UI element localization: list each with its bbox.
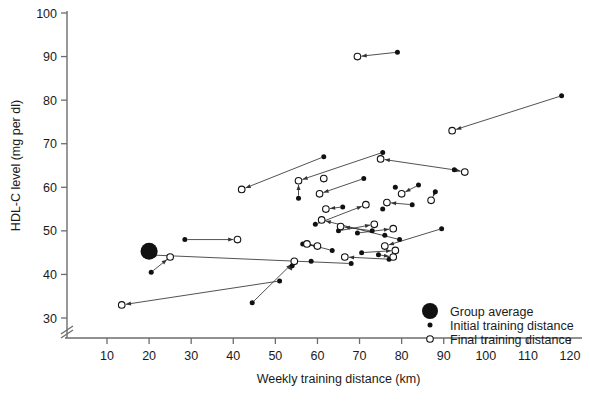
point-initial-training-distance — [277, 278, 282, 283]
arrow-connector — [246, 158, 322, 188]
x-tick-label-90: 90 — [437, 349, 451, 363]
point-final-training-distance — [291, 258, 298, 265]
point-final-training-distance — [354, 53, 361, 60]
point-initial-training-distance — [380, 207, 385, 212]
point-final-training-distance — [167, 254, 174, 261]
x-tick-label-60: 60 — [311, 349, 325, 363]
y-tick-label-40: 40 — [43, 268, 57, 282]
arrow-connector — [302, 153, 380, 179]
point-final-training-distance — [238, 186, 245, 193]
point-final-training-distance — [461, 169, 468, 176]
chart-legend: Group averageInitial training distanceFi… — [422, 303, 574, 347]
x-tick-label-80: 80 — [395, 349, 409, 363]
y-tick-label-70: 70 — [43, 137, 57, 151]
x-tick-label-50: 50 — [268, 349, 282, 363]
arrow-head — [246, 184, 252, 188]
arrow-head — [385, 158, 390, 162]
arrow-connector — [151, 255, 348, 263]
y-tick-label-80: 80 — [43, 94, 57, 108]
point-final-training-distance — [377, 156, 384, 163]
point-initial-training-distance — [321, 154, 326, 159]
data-points — [118, 50, 564, 309]
point-final-training-distance — [314, 243, 321, 250]
point-initial-training-distance — [439, 226, 444, 231]
point-initial-training-distance — [349, 261, 354, 266]
point-initial-training-distance — [452, 167, 457, 172]
arrow-connector — [349, 257, 387, 259]
point-initial-training-distance — [397, 237, 402, 242]
point-final-training-distance — [428, 197, 435, 204]
arrow-connector — [389, 229, 439, 244]
point-group-average — [141, 243, 158, 260]
point-initial-training-distance — [313, 222, 318, 227]
y-tick-label-90: 90 — [43, 50, 57, 64]
point-initial-training-distance — [395, 50, 400, 55]
legend-label-group-average: Group average — [450, 305, 533, 319]
legend-marker-final-training-distance — [427, 336, 434, 343]
point-final-training-distance — [363, 201, 370, 208]
arrow-connector — [456, 97, 559, 130]
point-final-training-distance — [390, 254, 397, 261]
point-initial-training-distance — [410, 202, 415, 207]
x-tick-label-120: 120 — [560, 349, 581, 363]
point-final-training-distance — [304, 241, 311, 248]
point-final-training-distance — [384, 199, 391, 206]
point-final-training-distance — [371, 221, 378, 228]
point-initial-training-distance — [309, 259, 314, 264]
legend-marker-initial-training-distance — [428, 323, 433, 328]
arrow-head — [386, 249, 391, 253]
point-initial-training-distance — [380, 150, 385, 155]
point-initial-training-distance — [416, 183, 421, 188]
point-final-training-distance — [323, 206, 330, 213]
arrow-head — [297, 185, 301, 190]
legend-label-final-training-distance: Final training distance — [450, 333, 572, 347]
arrow-head — [326, 220, 332, 224]
x-tick-label-110: 110 — [518, 349, 538, 363]
point-initial-training-distance — [149, 270, 154, 275]
x-axis-title: Weekly training distance (km) — [257, 372, 421, 386]
point-initial-training-distance — [361, 176, 366, 181]
point-final-training-distance — [398, 191, 405, 198]
point-initial-training-distance — [559, 93, 564, 98]
arrow-head — [456, 126, 462, 130]
point-final-training-distance — [318, 217, 325, 224]
point-final-training-distance — [342, 254, 349, 261]
point-initial-training-distance — [182, 237, 187, 242]
arrow-head — [330, 206, 335, 210]
point-initial-training-distance — [355, 231, 360, 236]
y-tick-label-30: 30 — [43, 312, 57, 326]
legend-label-initial-training-distance: Initial training distance — [450, 319, 574, 333]
point-final-training-distance — [316, 191, 323, 198]
arrow-head — [323, 189, 329, 193]
chart-canvas: 3040506070809010010203040506070809010011… — [0, 0, 590, 414]
x-tick-label-40: 40 — [226, 349, 240, 363]
arrow-connector — [323, 179, 361, 192]
x-tick-label-30: 30 — [184, 349, 198, 363]
point-initial-training-distance — [376, 252, 381, 257]
y-axis-title: HDL-C level (mg per dl) — [9, 100, 23, 231]
hdl-training-scatter-figure: 3040506070809010010203040506070809010011… — [0, 0, 590, 414]
point-initial-training-distance — [370, 228, 375, 233]
point-initial-training-distance — [359, 250, 364, 255]
arrow-connector — [254, 264, 291, 301]
point-final-training-distance — [234, 236, 241, 243]
point-initial-training-distance — [330, 248, 335, 253]
arrow-head — [126, 302, 131, 306]
point-initial-training-distance — [393, 185, 398, 190]
x-tick-label-10: 10 — [100, 349, 114, 363]
arrow-head — [389, 241, 395, 245]
point-initial-training-distance — [250, 300, 255, 305]
arrow-head — [356, 206, 362, 210]
arrow-head — [302, 176, 308, 180]
point-final-training-distance — [390, 225, 397, 232]
y-tick-label-100: 100 — [36, 7, 57, 21]
x-tick-label-100: 100 — [475, 349, 496, 363]
arrow-connector — [385, 160, 452, 170]
point-final-training-distance — [337, 223, 344, 230]
arrow-connectors — [126, 52, 559, 305]
point-initial-training-distance — [340, 204, 345, 209]
point-initial-training-distance — [433, 189, 438, 194]
point-final-training-distance — [320, 175, 327, 182]
x-tick-label-70: 70 — [353, 349, 367, 363]
arrow-head — [384, 228, 389, 232]
